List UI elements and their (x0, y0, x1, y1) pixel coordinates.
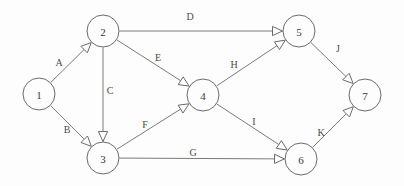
edge-label-F: F (142, 119, 148, 130)
edge-D (120, 26, 283, 35)
node-3[interactable]: 3 (87, 142, 119, 174)
edge-label-K: K (317, 127, 325, 138)
node-label-7: 7 (362, 90, 368, 102)
graph-diagram: 1234567 ABCDEFGHIJK (0, 0, 404, 186)
edge-I (217, 104, 287, 150)
node-4[interactable]: 4 (187, 79, 219, 111)
edge-label-E: E (155, 52, 161, 63)
node-6[interactable]: 6 (285, 143, 317, 175)
edge-E (117, 40, 189, 86)
edge-F (117, 104, 189, 149)
graph-canvas: 1234567 ABCDEFGHIJK (0, 0, 404, 186)
edge-label-C: C (107, 85, 114, 96)
edge-label-J: J (336, 43, 340, 54)
edge-G (119, 154, 284, 163)
node-label-6: 6 (298, 154, 304, 166)
node-label-5: 5 (296, 26, 302, 38)
edge-label-A: A (55, 57, 63, 68)
edge-H (217, 40, 286, 86)
edge-label-G: G (189, 147, 196, 158)
node-label-4: 4 (200, 90, 206, 102)
node-5[interactable]: 5 (283, 15, 315, 47)
edge-label-I: I (252, 116, 255, 127)
edge-J (311, 42, 353, 83)
node-1[interactable]: 1 (23, 78, 55, 110)
nodes-layer: 1234567 (23, 15, 381, 175)
edge-B (51, 106, 92, 147)
edge-label-B: B (64, 124, 71, 135)
edge-label-H: H (230, 59, 237, 70)
node-2[interactable]: 2 (87, 15, 119, 47)
node-label-2: 2 (100, 26, 106, 38)
edge-label-D: D (186, 11, 193, 22)
node-label-3: 3 (100, 153, 106, 165)
node-7[interactable]: 7 (349, 79, 381, 111)
node-label-1: 1 (36, 89, 42, 101)
